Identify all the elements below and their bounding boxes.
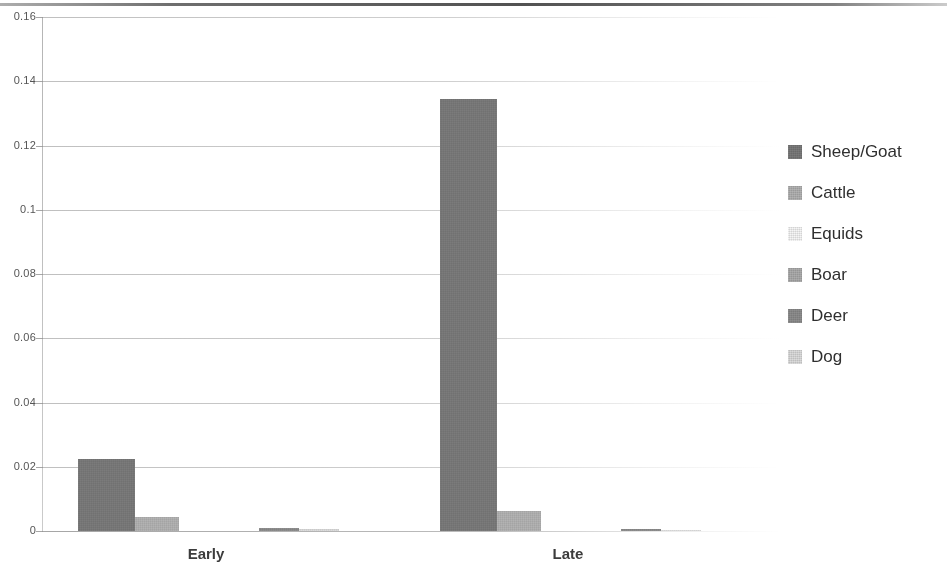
y-axis-tick xyxy=(36,81,43,82)
legend-item-equids[interactable]: Equids xyxy=(788,213,947,254)
x-axis-category-label: Late xyxy=(553,545,584,562)
y-axis-tick-label: 0.16 xyxy=(2,11,36,22)
bar-early-dog xyxy=(299,529,339,531)
y-axis-tick-label: 0.04 xyxy=(2,397,36,408)
y-axis-tick-label: 0.14 xyxy=(2,75,36,86)
y-axis-tick-label: 0.08 xyxy=(2,268,36,279)
legend-item-label: Cattle xyxy=(811,184,855,202)
bar-early-cattle xyxy=(135,517,179,531)
legend-item-label: Sheep/Goat xyxy=(811,143,902,161)
bar-early-deer xyxy=(259,528,299,531)
y-axis-tick xyxy=(36,146,43,147)
x-axis-category-label: Early xyxy=(188,545,225,562)
legend-swatch-icon xyxy=(788,186,802,200)
y-axis-tick-label: 0 xyxy=(2,525,36,536)
legend-item-sheep-goat[interactable]: Sheep/Goat xyxy=(788,131,947,172)
y-axis-tick-label: 0.06 xyxy=(2,332,36,343)
bar-late-deer xyxy=(621,529,661,531)
y-axis-labels: 0.160.140.120.10.080.060.040.020 xyxy=(0,17,36,531)
y-axis-tick xyxy=(36,403,43,404)
legend-item-label: Deer xyxy=(811,307,848,325)
y-axis-tick xyxy=(36,274,43,275)
legend-item-deer[interactable]: Deer xyxy=(788,295,947,336)
legend-item-label: Equids xyxy=(811,225,863,243)
bar-late-dog xyxy=(661,530,701,531)
bar-late-sheep-goat xyxy=(440,99,497,531)
legend-swatch-icon xyxy=(788,227,802,241)
plot-area xyxy=(42,17,780,531)
legend-swatch-icon xyxy=(788,145,802,159)
bar-late-cattle xyxy=(497,511,541,531)
y-axis-tick xyxy=(36,531,43,532)
legend-item-label: Dog xyxy=(811,348,842,366)
y-axis-tick xyxy=(36,338,43,339)
legend-item-dog[interactable]: Dog xyxy=(788,336,947,377)
bar-early-sheep-goat xyxy=(78,459,135,531)
y-axis-tick-label: 0.02 xyxy=(2,461,36,472)
legend-item-boar[interactable]: Boar xyxy=(788,254,947,295)
legend-swatch-icon xyxy=(788,350,802,364)
y-axis-tick-label: 0.12 xyxy=(2,140,36,151)
gridline xyxy=(42,531,780,532)
y-axis-tick xyxy=(36,17,43,18)
y-axis-tick xyxy=(36,467,43,468)
y-axis-tick-label: 0.1 xyxy=(2,204,36,215)
legend-item-cattle[interactable]: Cattle xyxy=(788,172,947,213)
legend-swatch-icon xyxy=(788,309,802,323)
bar-series-layer xyxy=(42,17,780,531)
legend-item-label: Boar xyxy=(811,266,847,284)
y-axis-tick xyxy=(36,210,43,211)
legend-swatch-icon xyxy=(788,268,802,282)
chart-legend: Sheep/GoatCattleEquidsBoarDeerDog xyxy=(788,131,947,377)
